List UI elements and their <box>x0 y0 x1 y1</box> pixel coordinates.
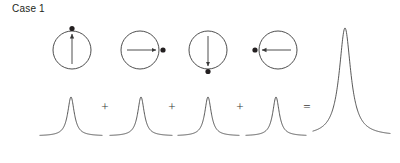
sum-peak-curve <box>313 28 390 133</box>
dot-marker-bottom <box>205 69 210 74</box>
plus-sign-3: + <box>236 99 243 114</box>
circle-group-4 <box>252 31 297 69</box>
plus-sign-1: + <box>101 99 108 114</box>
component-peak-curve-2 <box>110 97 172 135</box>
peak-group <box>40 28 390 135</box>
dot-marker-top <box>69 26 74 31</box>
figure-panel: Case 1 <box>0 0 400 163</box>
figure-canvas: +++= <box>0 0 400 163</box>
equals-sign: = <box>303 99 310 114</box>
plus-sign-2: + <box>168 99 175 114</box>
circle-group-2 <box>121 31 166 69</box>
component-peak-curve-1 <box>40 97 102 135</box>
circle-group-3 <box>189 31 227 74</box>
component-peak-curve-3 <box>178 97 239 135</box>
circle-group-1 <box>53 26 91 69</box>
component-peak-curve-4 <box>246 97 306 135</box>
dot-marker-left <box>252 47 257 52</box>
dot-marker-right <box>160 47 165 52</box>
